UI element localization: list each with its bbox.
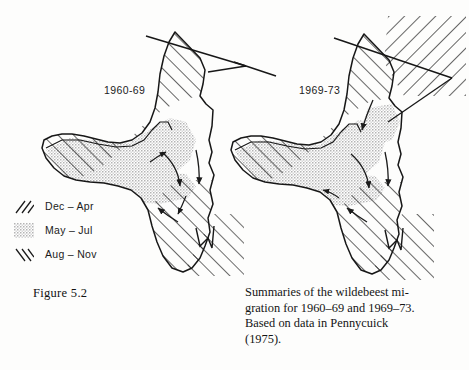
back-hatch-swatch-icon [14,247,34,262]
caption-line: Summaries of the wildebeest mi- [245,285,450,301]
legend-label-aug-nov: Aug – Nov [45,248,97,260]
legend-item-dec-apr: Dec – Apr [14,194,97,218]
legend-label-dec-apr: Dec – Apr [45,200,94,212]
legend-item-may-jul: May – Jul [14,218,97,242]
stipple-swatch-icon [14,223,34,238]
caption-line: gration for 1960–69 and 1969–73. [245,301,450,317]
caption-line: Based on data in Pennycuick [245,316,450,332]
legend-item-aug-nov: Aug – Nov [14,242,97,266]
legend: Dec – Apr May – Jul Aug – Nov [14,194,97,266]
forward-hatch-swatch-icon [14,199,34,214]
figure-number: Figure 5.2 [33,286,87,301]
map-label-1960-69: 1960-69 [104,84,145,96]
legend-label-may-jul: May – Jul [45,224,93,236]
map-label-1969-73: 1969-73 [299,84,340,96]
figure-caption: Summaries of the wildebeest mi- gration … [245,285,450,347]
figure-page: 1960-69 1969-73 Dec – Apr May – Jul [0,0,469,370]
caption-line: (1975). [245,332,450,348]
